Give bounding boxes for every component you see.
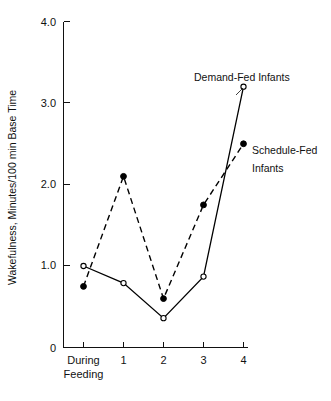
x-tick-label-feeding: Feeding [64,368,104,380]
x-axis-tick-labels: During Feeding 1 2 3 4 [64,354,247,380]
annotation-schedule-fed-line1: Schedule-Fed [252,144,318,156]
data-point [241,141,247,147]
y-tick-label-3: 3.0 [41,97,56,109]
x-tick-label-3: 3 [200,354,206,366]
data-point [121,281,126,286]
annotation-schedule-fed-line2: Infants [252,162,284,174]
x-tick-label-2: 2 [160,354,166,366]
series-demand-fed [81,84,246,321]
annotation-demand-fed: Demand-Fed Infants [194,71,290,83]
data-point [121,173,127,179]
y-axis-tick-labels: 4.0 3.0 2.0 1.0 0 [41,16,56,354]
data-point [241,84,246,89]
figure-container: 4.0 3.0 2.0 1.0 0 Wakefulness, Minutes/1… [0,0,331,401]
data-point [201,202,207,208]
top-caption [36,0,236,10]
x-tick-label-during: During [67,354,99,366]
x-tick-label-1: 1 [120,354,126,366]
series-schedule-fed [81,141,247,302]
data-point [81,283,87,289]
y-axis-title: Wakefulness, Minutes/100 min Base Time [6,90,18,285]
series-line [84,144,244,299]
y-tick-label-2: 2.0 [41,178,56,190]
data-point [201,274,206,279]
x-tick-label-4: 4 [240,354,246,366]
series-line [84,87,244,318]
data-point [161,316,166,321]
y-tick-label-4: 4.0 [41,16,56,28]
y-tick-label-1: 1.0 [41,259,56,271]
line-chart: 4.0 3.0 2.0 1.0 0 Wakefulness, Minutes/1… [0,0,331,401]
data-series-layer [81,84,247,321]
data-point [161,296,167,302]
data-point [81,263,86,268]
y-tick-label-0: 0 [50,342,56,354]
